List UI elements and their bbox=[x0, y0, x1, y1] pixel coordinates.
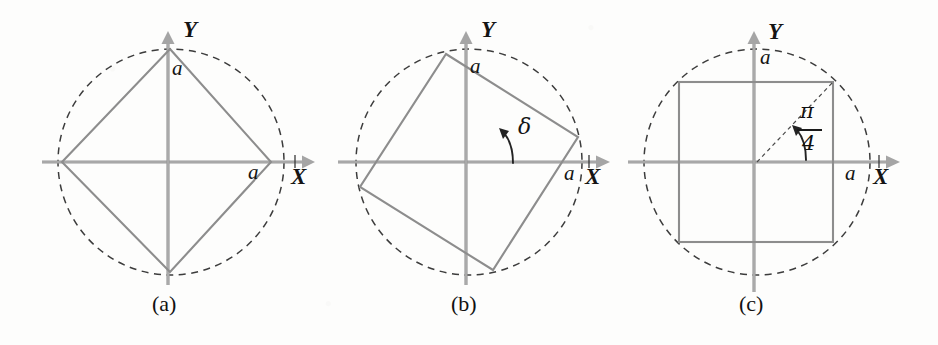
panel-c-x-axis-label: X bbox=[873, 165, 888, 188]
panel-c-graphics bbox=[628, 31, 900, 292]
panel-b-y-axis-arrowhead bbox=[460, 31, 473, 44]
panel-a-side-label-top: a bbox=[172, 58, 183, 79]
panel-b-angle-arc bbox=[504, 133, 513, 163]
panel-c-angle-denominator: 4 bbox=[802, 133, 815, 154]
panel-a-y-axis-arrowhead bbox=[162, 31, 175, 44]
panel-a-x-axis-label: X bbox=[291, 165, 306, 188]
panel-a-y-axis-label: Y bbox=[183, 18, 197, 41]
figure-root: Y X a a (a) Y X a a δ (b) Y X a a π 4 (c… bbox=[0, 0, 938, 345]
panel-c-angle-numerator: π bbox=[800, 101, 814, 122]
panel-c-y-axis-arrowhead bbox=[748, 31, 761, 44]
panel-b-x-axis-label: X bbox=[585, 165, 600, 188]
panel-b-y-axis-label: Y bbox=[481, 18, 495, 41]
panel-c-side-label-right: a bbox=[845, 163, 856, 184]
panel-c-side-label-top: a bbox=[760, 47, 771, 68]
panel-b-caption: (b) bbox=[451, 293, 477, 315]
panel-a-side-label-right: a bbox=[248, 162, 259, 183]
panel-b-side-label-top: a bbox=[470, 56, 481, 77]
panel-c-diagonal bbox=[757, 82, 833, 162]
panel-b-angle-label: δ bbox=[518, 116, 531, 138]
panel-c-y-axis-label: Y bbox=[768, 20, 782, 43]
panel-a-caption: (a) bbox=[152, 293, 176, 315]
panel-b-side-label-right: a bbox=[564, 163, 575, 184]
panel-c-caption: (c) bbox=[739, 293, 763, 315]
